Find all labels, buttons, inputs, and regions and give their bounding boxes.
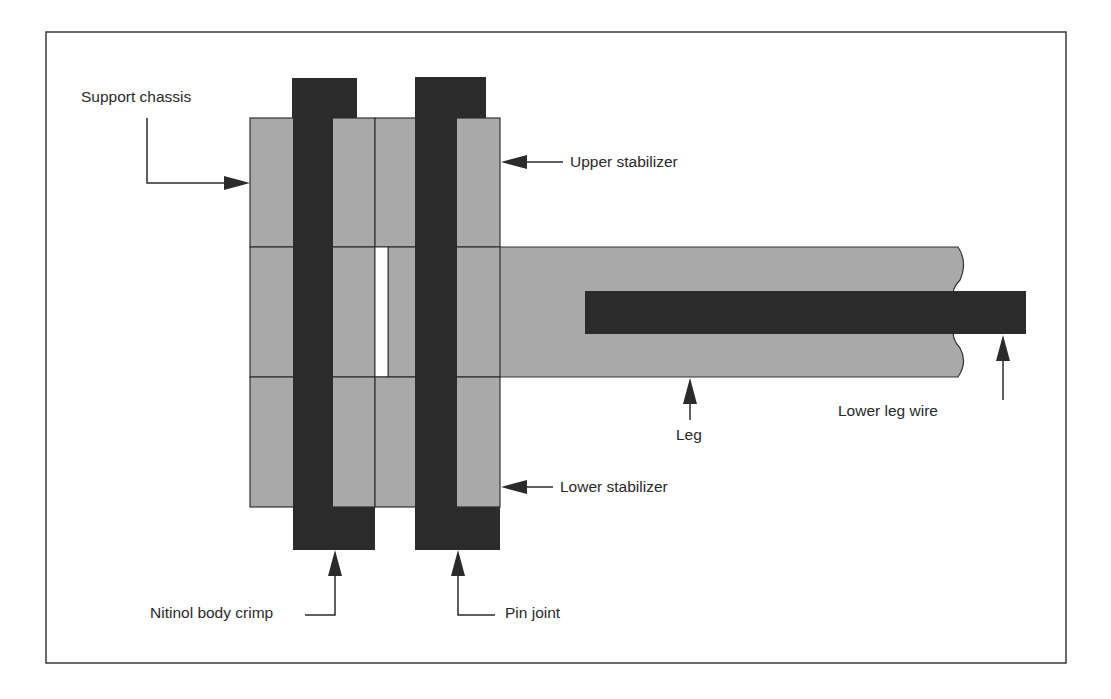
lower-leg-wire xyxy=(585,291,1026,334)
lower-stabilizer xyxy=(250,377,500,507)
nitinol-body-crimp-label: Nitinol body crimp xyxy=(150,605,273,621)
support-chassis-label: Support chassis xyxy=(81,89,191,105)
leg-label: Leg xyxy=(676,427,702,443)
support-chassis-leader xyxy=(147,118,240,183)
arrow-left-icon xyxy=(501,155,527,169)
arrow-up-icon xyxy=(996,335,1010,361)
pin-joint-label: Pin joint xyxy=(505,605,560,621)
lower-leg-wire-label: Lower leg wire xyxy=(838,403,938,419)
arrow-right-icon xyxy=(224,176,250,190)
arrow-up-icon xyxy=(451,550,465,576)
lower-stabilizer-label: Lower stabilizer xyxy=(560,479,668,495)
upper-stabilizer xyxy=(250,118,500,247)
arrow-up-icon xyxy=(683,378,697,404)
arrow-up-icon xyxy=(328,550,342,576)
chassis-slot xyxy=(375,247,388,377)
upper-stabilizer-label: Upper stabilizer xyxy=(570,154,678,170)
arrow-left-icon xyxy=(501,480,527,494)
